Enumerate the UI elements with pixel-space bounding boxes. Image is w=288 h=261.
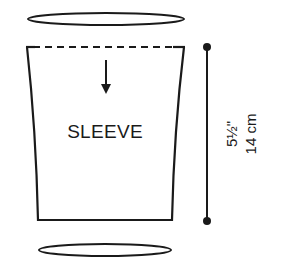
piece-label: SLEEVE bbox=[67, 121, 143, 142]
dimension-label-metric: 14 cm bbox=[242, 114, 259, 155]
arrow-down-icon bbox=[101, 84, 111, 94]
sleeve-schematic: SLEEVE 5½" 14 cm bbox=[0, 0, 288, 261]
bottom-opening-ellipse bbox=[39, 244, 171, 256]
dimension-endpoint-bottom bbox=[203, 217, 211, 225]
dimension-label-imperial: 5½" bbox=[223, 121, 240, 147]
top-opening-ellipse bbox=[28, 13, 184, 25]
dimension-endpoint-top bbox=[203, 43, 211, 51]
